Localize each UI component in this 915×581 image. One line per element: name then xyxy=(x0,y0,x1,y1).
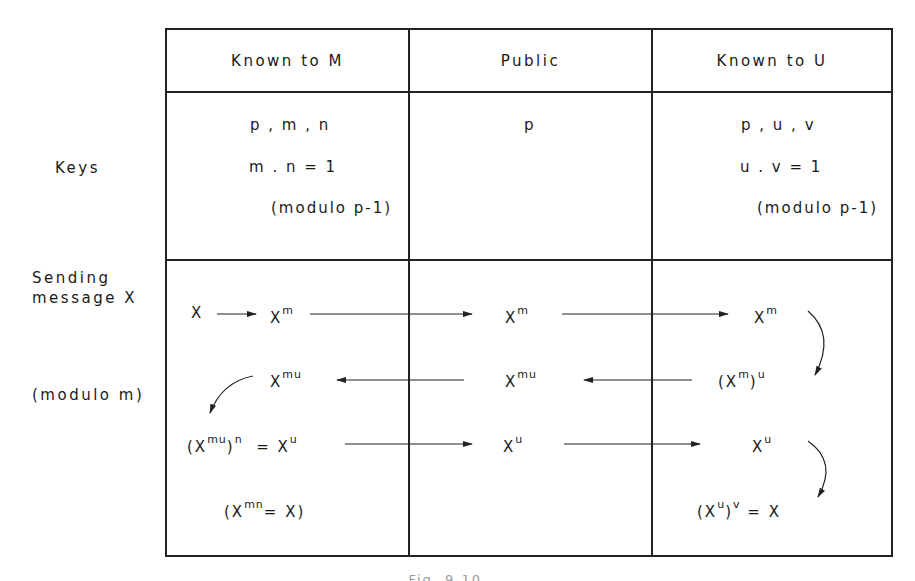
curve-arrow-u-apply-u xyxy=(808,311,824,375)
curve-arrow-u-apply-v xyxy=(808,441,826,497)
curve-arrow-m-apply-n xyxy=(210,376,253,413)
flow-arrows xyxy=(0,0,915,581)
figure-caption-clipped: Fig. 9.10 ... xyxy=(0,572,915,581)
